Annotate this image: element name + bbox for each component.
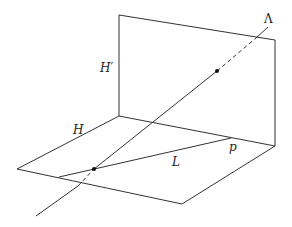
- line-lambda-upper: [256, 27, 268, 38]
- line-l: [59, 138, 231, 177]
- intersection-point-h-prime: [215, 69, 219, 73]
- intersection-point-h: [92, 167, 96, 171]
- label-h-prime: H′: [99, 61, 113, 75]
- vertical-plane-h-prime: [119, 15, 275, 146]
- label-l: L: [171, 155, 180, 169]
- label-p: p: [229, 140, 237, 154]
- label-lambda: Λ: [263, 12, 273, 26]
- horizontal-plane-h: [17, 116, 275, 204]
- label-h: H: [72, 123, 84, 137]
- diagram-canvas: Λ H′ H L p: [0, 0, 292, 227]
- line-lambda-hidden-upper: [217, 38, 256, 71]
- diagram-svg: Λ H′ H L p: [0, 0, 292, 227]
- line-lambda-middle: [94, 71, 217, 169]
- line-lambda-lower: [36, 186, 78, 216]
